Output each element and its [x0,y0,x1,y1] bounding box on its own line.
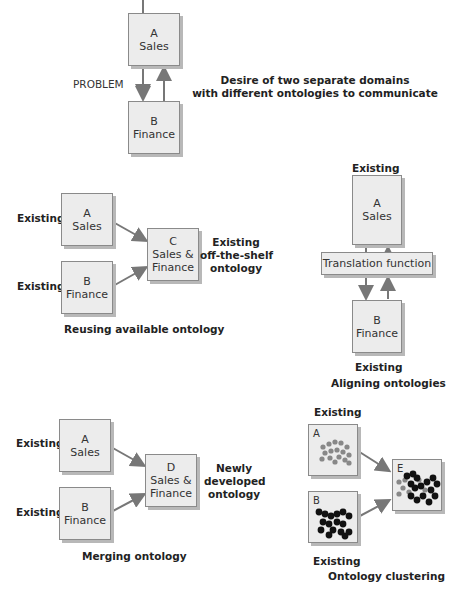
box-name: Finance [133,128,175,141]
clustering-title: Ontology clustering [328,570,445,583]
gray-cluster-dots [309,425,359,477]
problem-description: Desire of two separate domains with diff… [185,74,445,100]
clustering-existing-bottom: Existing [313,555,360,568]
description-line: with different ontologies to communicate [185,87,445,100]
reusing-existing-b: Existing [17,280,64,293]
box-letter: A [81,433,89,446]
cluster-box-b: B [308,491,358,543]
note-line: off-the-shelf [200,249,272,262]
box-letter: B [150,115,158,128]
description-line: Desire of two separate domains [185,74,445,87]
merging-existing-b: Existing [16,506,63,519]
merging-box-a-sales: A Sales [59,419,111,472]
box-name: Sales [139,40,168,53]
note-line: ontology [200,262,272,275]
reusing-box-c-sales-finance: C Sales & Finance [147,228,199,281]
clustering-existing-top: Existing [314,406,361,419]
problem-box-b-finance: B Finance [128,101,180,154]
aligning-box-a-sales: A Sales [352,175,402,245]
reusing-existing-a: Existing [17,212,64,225]
box-letter: D [167,461,175,474]
box-letter: B [81,501,89,514]
box-name: Finance [150,487,192,500]
cluster-box-a: A [308,424,358,476]
box-letter: A [83,207,91,220]
box-letter: C [169,235,177,248]
note-line: ontology [204,488,264,501]
aligning-existing-top: Existing [352,162,399,175]
box-letter: B [83,275,91,288]
box-name: Sales [362,210,391,223]
black-cluster-dots [309,492,359,544]
problem-label: PROBLEM [73,78,124,90]
merging-existing-a: Existing [16,437,63,450]
merging-title: Merging ontology [82,550,187,563]
note-line: Newly [204,462,264,475]
merging-box-b-finance: B Finance [59,487,111,540]
reusing-title: Reusing available ontology [64,323,224,336]
merging-note: Newly developed ontology [204,462,264,501]
aligning-existing-bottom: Existing [355,361,402,374]
translation-label: Translation function [323,257,431,270]
box-name: Finance [64,514,106,527]
box-name: Finance [356,327,398,340]
aligning-box-b-finance: B Finance [352,300,402,353]
box-name: Sales [70,446,99,459]
box-letter: A [150,27,158,40]
reusing-note: Existing off-the-shelf ontology [200,236,272,275]
aligning-title: Aligning ontologies [331,377,446,390]
cluster-box-e: E [392,459,442,511]
problem-box-a-sales: A Sales [128,13,180,66]
translation-function-box: Translation function [321,252,433,275]
box-letter: B [373,314,381,327]
box-name: Finance [66,288,108,301]
merging-box-d-sales-finance: D Sales & Finance [145,454,197,507]
box-name: Sales & [152,248,193,261]
reusing-box-a-sales: A Sales [61,193,113,246]
note-line: developed [204,475,264,488]
reusing-box-b-finance: B Finance [61,261,113,314]
note-line: Existing [200,236,272,249]
box-name: Sales [72,220,101,233]
box-name: Finance [152,261,194,274]
merged-cluster-dots [393,460,443,512]
box-name: Sales & [150,474,191,487]
box-letter: A [373,197,381,210]
